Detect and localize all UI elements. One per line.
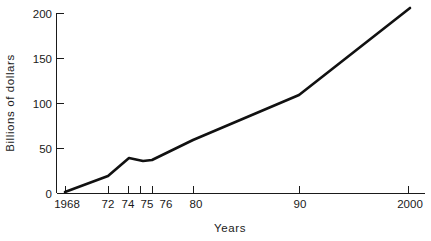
y-tick-label-50: 50 — [39, 143, 52, 155]
chart-canvas: 200 150 100 50 0 1968 72 74 75 76 80 90 — [0, 0, 431, 241]
data-series-line — [65, 8, 410, 192]
x-tick-label-2000: 2000 — [397, 198, 423, 210]
x-tick-label-76: 76 — [160, 198, 173, 210]
x-tick-label-72: 72 — [102, 198, 115, 210]
x-axis-ticks — [66, 186, 409, 194]
x-tick-label-75: 75 — [141, 198, 154, 210]
y-axis-ticks — [57, 14, 64, 149]
x-tick-label-80: 80 — [190, 198, 203, 210]
x-axis-tick-labels: 1968 72 74 75 76 80 90 2000 — [54, 198, 423, 210]
x-axis-title: Years — [214, 222, 246, 234]
y-tick-label-150: 150 — [33, 53, 52, 65]
line-chart-figure: 200 150 100 50 0 1968 72 74 75 76 80 90 — [0, 0, 431, 241]
x-tick-label-90: 90 — [294, 198, 307, 210]
x-tick-label-74: 74 — [122, 198, 135, 210]
y-axis-title: Billions of dollars — [4, 54, 16, 152]
y-tick-label-0: 0 — [46, 188, 52, 200]
x-tick-label-1968: 1968 — [54, 198, 80, 210]
y-tick-label-100: 100 — [33, 98, 52, 110]
y-axis-tick-labels: 200 150 100 50 0 — [33, 8, 52, 200]
y-tick-label-200: 200 — [33, 8, 52, 20]
